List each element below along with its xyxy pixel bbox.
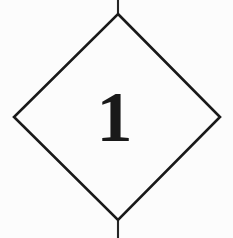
placard-canvas: 1 <box>0 0 233 238</box>
background-plate <box>0 0 233 238</box>
placard-figure <box>0 0 233 238</box>
